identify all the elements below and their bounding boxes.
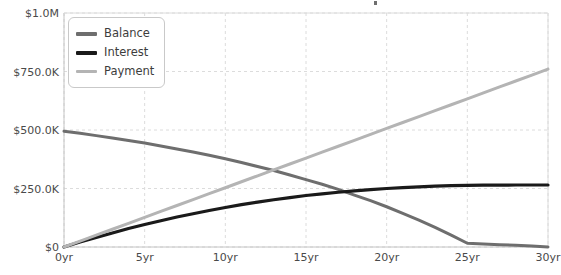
legend-item-payment[interactable]: Payment bbox=[76, 62, 156, 81]
legend-label-balance: Balance bbox=[104, 28, 150, 40]
x-tick-label: 25yr bbox=[455, 251, 480, 264]
y-tick-label: $250.0K bbox=[13, 182, 59, 195]
x-tick-label: 5yr bbox=[136, 251, 154, 264]
x-tick-label: 15yr bbox=[293, 251, 318, 264]
x-tick-label: 30yr bbox=[535, 251, 560, 264]
legend-item-balance[interactable]: Balance bbox=[76, 24, 156, 43]
legend-label-interest: Interest bbox=[104, 47, 148, 59]
y-tick-label: $1.0M bbox=[25, 7, 59, 20]
x-tick-label: 20yr bbox=[374, 251, 399, 264]
legend-swatch-balance bbox=[76, 32, 97, 36]
x-tick-label: 0yr bbox=[55, 251, 73, 264]
y-axis-tick-labels: $0$250.0K$500.0K$750.0K$1.0M bbox=[0, 0, 59, 275]
series-line-payment bbox=[64, 69, 548, 247]
chart-legend[interactable]: Balance Interest Payment bbox=[68, 17, 165, 88]
legend-swatch-payment bbox=[76, 70, 97, 73]
legend-swatch-interest bbox=[76, 51, 97, 55]
data-series-group bbox=[64, 69, 548, 247]
x-tick-label: 10yr bbox=[213, 251, 238, 264]
legend-item-interest[interactable]: Interest bbox=[76, 43, 156, 62]
title-artifact-mark bbox=[374, 1, 377, 5]
y-tick-label: $500.0K bbox=[13, 124, 59, 137]
y-tick-label: $750.0K bbox=[13, 65, 59, 78]
legend-label-payment: Payment bbox=[104, 66, 154, 78]
